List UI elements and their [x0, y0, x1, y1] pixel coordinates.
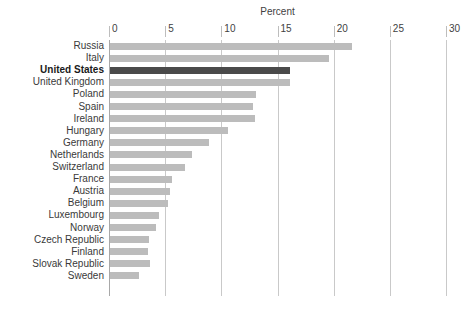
- bar-russia: [110, 43, 352, 50]
- tick-label-0: 0: [109, 23, 118, 34]
- bar-netherlands: [110, 151, 192, 158]
- bar-row: Switzerland: [0, 161, 474, 173]
- category-label-united-kingdom: United Kingdom: [0, 76, 104, 88]
- category-label-netherlands: Netherlands: [0, 149, 104, 161]
- category-label-italy: Italy: [0, 52, 104, 64]
- bar-austria: [110, 188, 170, 195]
- bar-row: Sweden: [0, 270, 474, 282]
- bar-row: Austria: [0, 185, 474, 197]
- category-label-finland: Finland: [0, 246, 104, 258]
- bar-row: Belgium: [0, 197, 474, 209]
- bar-france: [110, 176, 172, 183]
- bar-sweden: [110, 272, 139, 279]
- tick-label-5: 5: [165, 23, 174, 34]
- bar-row: Russia: [0, 40, 474, 52]
- bar-row: France: [0, 173, 474, 185]
- bar-row: Netherlands: [0, 149, 474, 161]
- bar-row: Hungary: [0, 125, 474, 137]
- tick-label-10: 10: [221, 23, 235, 34]
- bar-poland: [110, 91, 256, 98]
- category-label-slovak-republic: Slovak Republic: [0, 258, 104, 270]
- bar-germany: [110, 139, 209, 146]
- bar-norway: [110, 224, 156, 231]
- category-label-austria: Austria: [0, 185, 104, 197]
- tick-label-15: 15: [278, 23, 292, 34]
- bar-slovak-republic: [110, 260, 150, 267]
- bar-switzerland: [110, 164, 185, 171]
- chart-axis-title: Percent: [109, 6, 446, 17]
- category-label-united-states: United States: [0, 64, 104, 76]
- category-label-belgium: Belgium: [0, 197, 104, 209]
- bar-czech-republic: [110, 236, 149, 243]
- bar-row: United States: [0, 64, 474, 76]
- bar-finland: [110, 248, 148, 255]
- bar-row: Germany: [0, 137, 474, 149]
- category-label-spain: Spain: [0, 101, 104, 113]
- tick-label-25: 25: [390, 23, 404, 34]
- bar-belgium: [110, 200, 168, 207]
- bar-united-kingdom: [110, 79, 290, 86]
- tick-label-20: 20: [334, 23, 348, 34]
- bar-row: Spain: [0, 101, 474, 113]
- category-label-norway: Norway: [0, 222, 104, 234]
- bar-row: Luxembourg: [0, 209, 474, 221]
- category-label-france: France: [0, 173, 104, 185]
- bar-row: United Kingdom: [0, 76, 474, 88]
- bar-row: Poland: [0, 88, 474, 100]
- category-label-czech-republic: Czech Republic: [0, 234, 104, 246]
- bar-row: Ireland: [0, 113, 474, 125]
- category-label-ireland: Ireland: [0, 113, 104, 125]
- bar-row: Finland: [0, 246, 474, 258]
- chart-page: Percent 051015202530 RussiaItalyUnited S…: [0, 0, 474, 312]
- bar-row: Czech Republic: [0, 234, 474, 246]
- category-label-sweden: Sweden: [0, 270, 104, 282]
- category-label-switzerland: Switzerland: [0, 161, 104, 173]
- bar-italy: [110, 55, 329, 62]
- category-label-russia: Russia: [0, 40, 104, 52]
- bar-united-states: [110, 67, 290, 74]
- bar-luxembourg: [110, 212, 159, 219]
- bar-hungary: [110, 127, 228, 134]
- tick-label-30: 30: [446, 23, 460, 34]
- category-label-hungary: Hungary: [0, 125, 104, 137]
- category-label-luxembourg: Luxembourg: [0, 209, 104, 221]
- category-label-germany: Germany: [0, 137, 104, 149]
- category-label-poland: Poland: [0, 88, 104, 100]
- bar-spain: [110, 103, 253, 110]
- bar-row: Slovak Republic: [0, 258, 474, 270]
- bar-row: Norway: [0, 222, 474, 234]
- bar-row: Italy: [0, 52, 474, 64]
- bar-ireland: [110, 115, 255, 122]
